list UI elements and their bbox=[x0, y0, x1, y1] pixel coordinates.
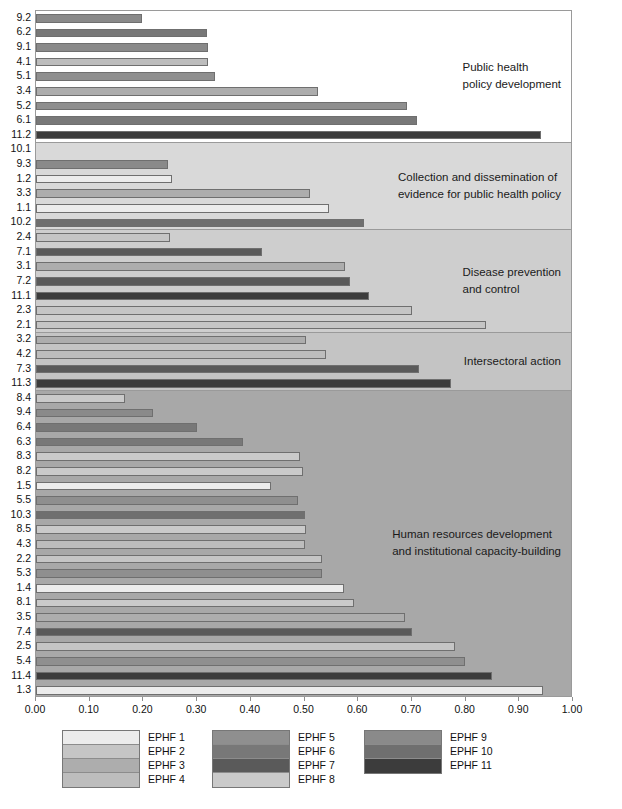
category-label: 9.3 bbox=[16, 158, 31, 169]
bar-row bbox=[36, 55, 571, 70]
bar bbox=[36, 438, 243, 447]
bar-row bbox=[36, 406, 571, 421]
bar bbox=[36, 87, 318, 96]
legend-swatch bbox=[63, 745, 139, 759]
bar bbox=[36, 379, 451, 388]
bar-row bbox=[36, 479, 571, 494]
x-tick-mark bbox=[142, 697, 143, 701]
bar bbox=[36, 175, 172, 184]
legend-swatch bbox=[213, 731, 289, 745]
bar-row bbox=[36, 654, 571, 669]
x-tick-mark bbox=[196, 697, 197, 701]
bar-row bbox=[36, 11, 571, 26]
category-label: 3.1 bbox=[16, 260, 31, 271]
bar-row bbox=[36, 347, 571, 362]
bar-row bbox=[36, 201, 571, 216]
legend-label: EPHF 3 bbox=[148, 758, 185, 772]
bar bbox=[36, 43, 208, 52]
bar-row bbox=[36, 625, 571, 640]
legend-label: EPHF 2 bbox=[148, 744, 185, 758]
category-label: 10.2 bbox=[11, 216, 31, 227]
bar bbox=[36, 672, 492, 681]
legend-swatch bbox=[63, 731, 139, 745]
bar bbox=[36, 219, 364, 228]
category-label: 9.2 bbox=[16, 12, 31, 23]
x-tick-label: 1.00 bbox=[562, 703, 582, 715]
x-tick-label: 0.80 bbox=[454, 703, 474, 715]
legend-swatch bbox=[365, 759, 441, 773]
x-tick-label: 0.90 bbox=[508, 703, 528, 715]
legend-label: EPHF 9 bbox=[450, 730, 493, 744]
bar-row bbox=[36, 522, 571, 537]
category-label: 7.3 bbox=[16, 363, 31, 374]
chart-section: Disease prevention and control bbox=[35, 229, 572, 331]
horizontal-bar-chart: 9.26.29.14.15.13.45.26.111.210.19.31.23.… bbox=[0, 0, 622, 809]
bar bbox=[36, 131, 541, 140]
bar-row bbox=[36, 128, 571, 143]
x-tick-label: 0.20 bbox=[132, 703, 152, 715]
bar bbox=[36, 511, 305, 520]
bar-row bbox=[36, 669, 571, 684]
bar bbox=[36, 482, 271, 491]
x-tick-label: 0.60 bbox=[347, 703, 367, 715]
bar-row bbox=[36, 186, 571, 201]
category-label: 5.1 bbox=[16, 70, 31, 81]
chart-section: Intersectoral action bbox=[35, 332, 572, 390]
category-label: 4.2 bbox=[16, 348, 31, 359]
bar bbox=[36, 628, 412, 637]
bar-row bbox=[36, 493, 571, 508]
bar bbox=[36, 72, 215, 81]
category-label: 8.2 bbox=[16, 465, 31, 476]
category-label: 4.1 bbox=[16, 56, 31, 67]
bar-row bbox=[36, 566, 571, 581]
category-label: 10.1 bbox=[11, 143, 31, 154]
bar-row bbox=[36, 464, 571, 479]
category-axis-labels: 9.26.29.14.15.13.45.26.111.210.19.31.23.… bbox=[0, 10, 33, 697]
legend-swatch bbox=[63, 759, 139, 773]
category-label: 10.3 bbox=[11, 509, 31, 520]
bar-row bbox=[36, 289, 571, 304]
bar bbox=[36, 540, 305, 549]
category-label: 8.5 bbox=[16, 523, 31, 534]
category-label: 11.2 bbox=[11, 129, 31, 140]
bar-row bbox=[36, 26, 571, 41]
legend-labels: EPHF 9EPHF 10EPHF 11 bbox=[450, 730, 493, 772]
x-tick-mark bbox=[89, 697, 90, 701]
legend-swatch-stack bbox=[364, 730, 442, 774]
category-label: 1.3 bbox=[16, 684, 31, 695]
legend-label: EPHF 4 bbox=[148, 772, 185, 786]
bar-row bbox=[36, 216, 571, 231]
category-label: 2.4 bbox=[16, 231, 31, 242]
chart-section: Collection and dissemination of evidence… bbox=[35, 142, 572, 230]
bar bbox=[36, 496, 298, 505]
category-label: 8.1 bbox=[16, 596, 31, 607]
category-label: 11.4 bbox=[11, 670, 31, 681]
category-label: 11.3 bbox=[11, 377, 31, 388]
bar bbox=[36, 233, 170, 242]
plot-area: Public health policy developmentCollecti… bbox=[35, 10, 572, 697]
bar bbox=[36, 467, 303, 476]
category-label: 5.4 bbox=[16, 655, 31, 666]
x-tick-label: 0.30 bbox=[186, 703, 206, 715]
x-tick-mark bbox=[465, 697, 466, 701]
legend-swatch bbox=[63, 773, 139, 787]
bar-row bbox=[36, 99, 571, 114]
category-label: 1.1 bbox=[16, 202, 31, 213]
bar-row bbox=[36, 552, 571, 567]
bar bbox=[36, 613, 405, 622]
bar-row bbox=[36, 84, 571, 99]
bar bbox=[36, 336, 306, 345]
legend-label: EPHF 6 bbox=[298, 744, 335, 758]
bar bbox=[36, 160, 168, 169]
bar-row bbox=[36, 157, 571, 172]
bar bbox=[36, 262, 345, 271]
category-label: 7.2 bbox=[16, 275, 31, 286]
x-tick-mark bbox=[572, 697, 573, 701]
x-tick-mark bbox=[518, 697, 519, 701]
x-tick-mark bbox=[357, 697, 358, 701]
bar-row bbox=[36, 259, 571, 274]
bar bbox=[36, 14, 142, 23]
category-label: 7.4 bbox=[16, 626, 31, 637]
x-tick-mark bbox=[304, 697, 305, 701]
x-tick-label: 0.40 bbox=[240, 703, 260, 715]
